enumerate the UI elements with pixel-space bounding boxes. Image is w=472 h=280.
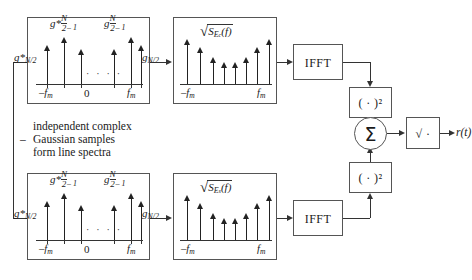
axis-label-center: 0 xyxy=(84,88,90,99)
psd-stem xyxy=(213,62,214,84)
sqrt-to-output-arrow xyxy=(449,130,455,136)
axis-label-left: –fm xyxy=(39,88,53,100)
spectrum-stem-arrow xyxy=(78,49,84,55)
psd-stem-arrow xyxy=(266,195,272,201)
axis-tick xyxy=(114,240,115,244)
sqrt-output-box: √ · xyxy=(406,117,440,149)
spectrum-stem-arrow xyxy=(111,205,117,211)
upper-ifft-to-square-h xyxy=(343,62,370,63)
annotation-dash: – xyxy=(20,133,26,146)
lower-label-g-N-half-minus-1: gN2– 1 xyxy=(104,170,125,189)
lower-spectrum-to-psd-arrow xyxy=(166,215,172,221)
lower-spectrum-axis xyxy=(36,240,143,241)
spectrum-stem xyxy=(47,50,48,84)
spectrum-stem-arrow xyxy=(128,193,134,199)
psd-stem xyxy=(224,223,225,240)
spectrum-stem xyxy=(81,54,82,84)
spectrum-stem-arrow xyxy=(44,201,50,207)
psd-stem-arrow xyxy=(243,57,249,63)
upper-line-spectrum-box: · · · · –fm 0 fm xyxy=(27,17,150,104)
diagram-canvas: · · · · –fm 0 fm g*N/2 g*N2– 1 gN2– 1 gN… xyxy=(0,0,472,280)
spectrum-stem xyxy=(64,42,65,84)
spectrum-stem-arrow xyxy=(111,49,117,55)
upper-square-box: ( · )² xyxy=(349,87,392,118)
axis-tick xyxy=(64,84,65,88)
axis-label-right: fm xyxy=(127,244,135,256)
upper-label-g-N-half-minus-1: gN2– 1 xyxy=(104,14,125,33)
lower-ifft-to-square-h xyxy=(343,218,370,219)
psd-axis-label-right: fm xyxy=(257,88,265,100)
psd-stem-arrow xyxy=(243,213,249,219)
spectrum-ellipsis: · · · · xyxy=(86,224,122,235)
psd-stem-arrow xyxy=(210,57,216,63)
psd-stem-arrow xyxy=(210,213,216,219)
psd-stem-arrow xyxy=(254,203,260,209)
psd-stem-arrow xyxy=(232,218,238,224)
spectrum-stem xyxy=(81,210,82,240)
lower-ifft-label: IFFT xyxy=(294,212,342,227)
upper-psd-sqrt-label: √SEc(f) xyxy=(200,23,233,40)
upper-label-g-conj-N-half-minus-1: g*N2– 1 xyxy=(50,14,77,33)
psd-stem xyxy=(200,208,201,240)
psd-axis-label-right: fm xyxy=(257,244,265,256)
lower-ifft-to-square-arrow xyxy=(367,193,373,199)
psd-stem xyxy=(187,200,188,240)
psd-stem-arrow xyxy=(184,39,190,45)
axis-tick xyxy=(81,240,82,244)
psd-stem xyxy=(187,44,188,84)
output-signal-label: r(t) xyxy=(456,127,471,139)
lower-line-spectrum-box: · · · · –fm 0 fm xyxy=(27,173,150,260)
psd-stem xyxy=(257,208,258,240)
lower-psd-axis xyxy=(180,240,272,241)
spectrum-stem-arrow xyxy=(61,37,67,43)
spectrum-stem-arrow xyxy=(128,37,134,43)
upper-ifft-label: IFFT xyxy=(294,56,342,71)
summation-node: Σ xyxy=(354,117,387,150)
input-bracket-vertical xyxy=(13,62,14,218)
psd-stem xyxy=(235,223,236,240)
psd-stem xyxy=(235,67,236,84)
psd-stem-arrow xyxy=(221,62,227,68)
annotation-line-1: independent complex xyxy=(33,120,132,133)
lower-label-g-conj-N-half: g*N/2 xyxy=(14,208,36,221)
annotation-line-3: form line spectra xyxy=(33,146,111,159)
psd-stem xyxy=(224,67,225,84)
upper-label-g-N-half: gN/2 xyxy=(142,52,159,65)
spectrum-stem-arrow xyxy=(44,45,50,51)
lower-square-to-sum-line xyxy=(370,152,371,162)
sqrt-output-label: √ · xyxy=(407,127,439,142)
spectrum-stem xyxy=(131,42,132,84)
upper-ifft-to-square-v xyxy=(370,62,371,83)
upper-ifft-box: IFFT xyxy=(293,44,343,80)
axis-tick xyxy=(141,84,142,88)
psd-stem xyxy=(257,52,258,84)
psd-stem-arrow xyxy=(184,195,190,201)
lower-ifft-to-square-v xyxy=(370,199,371,218)
lower-label-g-conj-N-half-minus-1: g*N2– 1 xyxy=(50,170,77,189)
lower-label-g-N-half: gN/2 xyxy=(142,208,159,221)
psd-stem xyxy=(246,62,247,84)
psd-stem-arrow xyxy=(197,203,203,209)
spectrum-ellipsis: · · · · xyxy=(86,68,122,79)
psd-stem xyxy=(200,52,201,84)
axis-tick xyxy=(64,240,65,244)
axis-tick xyxy=(81,84,82,88)
psd-stem-arrow xyxy=(254,47,260,53)
lower-square-box: ( · )² xyxy=(349,162,392,193)
upper-spectrum-to-psd-arrow xyxy=(166,59,172,65)
spectrum-stem-arrow xyxy=(78,205,84,211)
psd-stem-arrow xyxy=(266,39,272,45)
annotation-line-2: Gaussian samples xyxy=(33,133,115,146)
spectrum-stem xyxy=(64,198,65,240)
axis-label-left: –fm xyxy=(39,244,53,256)
axis-tick xyxy=(141,240,142,244)
psd-stem-arrow xyxy=(197,47,203,53)
lower-psd-sqrt-label: √SEs(f) xyxy=(200,179,232,196)
axis-label-center: 0 xyxy=(84,244,90,255)
axis-tick xyxy=(114,84,115,88)
axis-label-right: fm xyxy=(127,88,135,100)
psd-stem-arrow xyxy=(221,218,227,224)
psd-stem xyxy=(269,200,270,240)
spectrum-stem xyxy=(131,198,132,240)
lower-psd-box: –fm fm √SEs(f) xyxy=(173,173,277,260)
